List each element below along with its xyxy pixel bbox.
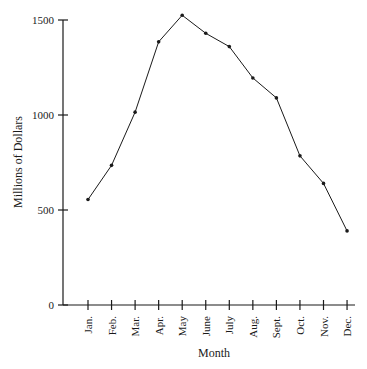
x-tick-label: Sept.: [270, 316, 282, 339]
data-point: [275, 96, 279, 100]
data-point: [133, 110, 137, 114]
data-point: [298, 154, 302, 158]
data-point: [345, 229, 349, 233]
data-point: [157, 40, 161, 44]
x-tick-label: Nov.: [318, 316, 330, 337]
x-tick-label: Dec.: [341, 316, 353, 337]
x-tick-label: Mar.: [129, 316, 141, 337]
x-tick-label: July: [223, 316, 235, 335]
data-point: [86, 198, 90, 202]
data-point: [322, 182, 326, 186]
x-axis-title: Month: [198, 346, 230, 360]
data-point: [251, 76, 255, 80]
series-line: [88, 15, 347, 231]
x-tick-label: Jan.: [82, 316, 94, 334]
y-tick-label: 500: [38, 204, 55, 216]
x-tick-label: Oct.: [294, 316, 306, 335]
x-axis: Jan.Feb.Mar.Apr.MayJuneJulyAug.Sept.Oct.…: [63, 300, 355, 338]
x-tick-label: Aug.: [247, 316, 259, 338]
y-tick-label: 0: [49, 299, 55, 311]
y-axis-title: Millions of Dollars: [11, 116, 25, 208]
x-tick-label: Apr.: [153, 316, 165, 336]
data-point: [204, 32, 208, 36]
x-tick-label: May: [176, 316, 188, 337]
line-chart: 050010001500 Jan.Feb.Mar.Apr.MayJuneJuly…: [0, 0, 367, 369]
data-point: [110, 164, 114, 168]
data-point: [180, 13, 184, 17]
y-tick-label: 1500: [32, 14, 55, 26]
data-series: [86, 13, 349, 232]
x-tick-label: June: [200, 316, 212, 336]
data-point: [228, 45, 232, 49]
y-axis: 050010001500: [32, 14, 68, 311]
x-tick-label: Feb.: [106, 316, 118, 336]
y-tick-label: 1000: [32, 109, 55, 121]
